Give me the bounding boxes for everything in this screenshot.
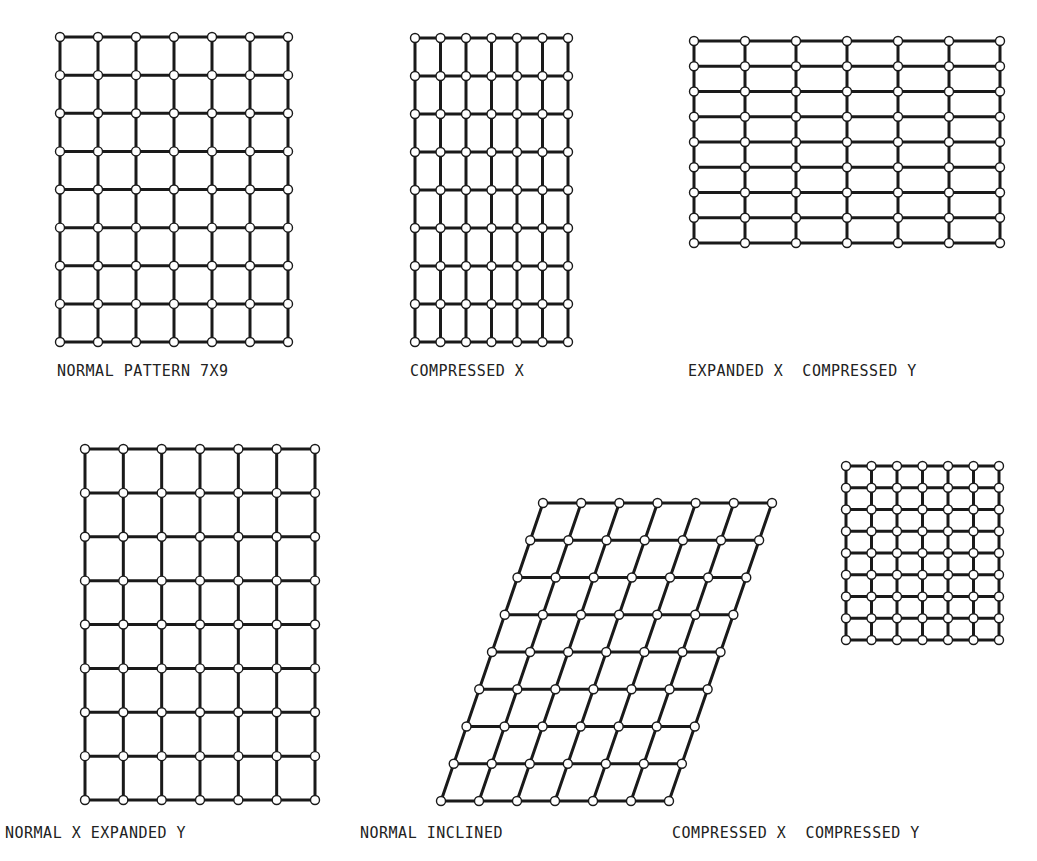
dot-icon bbox=[690, 138, 699, 147]
dot-icon bbox=[272, 752, 281, 761]
dot-icon bbox=[538, 338, 547, 347]
dot-icon bbox=[741, 239, 750, 248]
dot-icon bbox=[462, 300, 471, 309]
dot-icon bbox=[170, 299, 179, 308]
dot-icon bbox=[969, 570, 978, 579]
dot-icon bbox=[678, 648, 687, 657]
dot-icon bbox=[538, 722, 547, 731]
dot-icon bbox=[538, 262, 547, 271]
dot-icon bbox=[119, 445, 128, 454]
dot-icon bbox=[170, 33, 179, 42]
dot-icon bbox=[284, 147, 293, 156]
dot-icon bbox=[436, 34, 445, 43]
dot-icon bbox=[867, 570, 876, 579]
dot-icon bbox=[284, 33, 293, 42]
dot-icon bbox=[944, 527, 953, 536]
dot-icon bbox=[842, 614, 851, 623]
dot-icon bbox=[893, 570, 902, 579]
dot-icon bbox=[81, 752, 90, 761]
dot-icon bbox=[157, 664, 166, 673]
dot-icon bbox=[918, 462, 927, 471]
dot-icon bbox=[945, 138, 954, 147]
dot-icon bbox=[729, 499, 738, 508]
dot-icon bbox=[284, 71, 293, 80]
dot-icon bbox=[234, 445, 243, 454]
dot-icon bbox=[81, 620, 90, 629]
dot-icon bbox=[208, 338, 217, 347]
dot-icon bbox=[843, 62, 852, 71]
dot-icon bbox=[842, 592, 851, 601]
dot-icon bbox=[132, 338, 141, 347]
dot-icon bbox=[576, 610, 585, 619]
dot-icon bbox=[196, 445, 205, 454]
dot-icon bbox=[246, 185, 255, 194]
dot-icon bbox=[436, 224, 445, 233]
dot-icon bbox=[792, 138, 801, 147]
dot-icon bbox=[665, 797, 674, 806]
dot-icon bbox=[311, 796, 320, 805]
dot-icon bbox=[639, 759, 648, 768]
dot-icon bbox=[170, 109, 179, 118]
dot-icon bbox=[627, 573, 636, 582]
dot-icon bbox=[272, 708, 281, 717]
dot-icon bbox=[119, 664, 128, 673]
dot-icon bbox=[94, 147, 103, 156]
dot-icon bbox=[170, 338, 179, 347]
dot-icon bbox=[666, 573, 675, 582]
dot-icon bbox=[513, 338, 522, 347]
dot-icon bbox=[208, 71, 217, 80]
dot-icon bbox=[551, 573, 560, 582]
dot-icon bbox=[462, 338, 471, 347]
dot-icon bbox=[272, 620, 281, 629]
dot-icon bbox=[56, 261, 65, 270]
dot-icon bbox=[842, 636, 851, 645]
dot-icon bbox=[538, 610, 547, 619]
dot-icon bbox=[411, 186, 420, 195]
dot-icon bbox=[487, 300, 496, 309]
grid-compressed-x-compressed-y bbox=[842, 462, 1004, 645]
dot-icon bbox=[157, 445, 166, 454]
dot-icon bbox=[792, 239, 801, 248]
dot-icon bbox=[284, 338, 293, 347]
dot-icon bbox=[918, 570, 927, 579]
dot-icon bbox=[311, 576, 320, 585]
dot-icon bbox=[576, 722, 585, 731]
dot-icon bbox=[741, 188, 750, 197]
dot-icon bbox=[741, 112, 750, 121]
dot-icon bbox=[564, 148, 573, 157]
dot-icon bbox=[500, 610, 509, 619]
dot-icon bbox=[704, 573, 713, 582]
dot-icon bbox=[690, 188, 699, 197]
dot-icon bbox=[208, 261, 217, 270]
dot-icon bbox=[94, 185, 103, 194]
dot-icon bbox=[842, 527, 851, 536]
dot-icon bbox=[284, 261, 293, 270]
dot-icon bbox=[615, 610, 624, 619]
dot-icon bbox=[208, 33, 217, 42]
dot-icon bbox=[513, 110, 522, 119]
dot-icon bbox=[843, 239, 852, 248]
dot-icon bbox=[614, 722, 623, 731]
dot-icon bbox=[691, 499, 700, 508]
dot-icon bbox=[690, 163, 699, 172]
dot-icon bbox=[691, 610, 700, 619]
dot-icon bbox=[640, 648, 649, 657]
dot-icon bbox=[311, 752, 320, 761]
dot-icon bbox=[995, 483, 1004, 492]
dot-icon bbox=[918, 549, 927, 558]
dot-icon bbox=[894, 138, 903, 147]
dot-icon bbox=[487, 110, 496, 119]
dot-icon bbox=[272, 532, 281, 541]
dot-icon bbox=[944, 592, 953, 601]
dot-icon bbox=[234, 620, 243, 629]
dot-icon bbox=[272, 664, 281, 673]
dot-icon bbox=[56, 299, 65, 308]
dot-icon bbox=[538, 224, 547, 233]
dot-icon bbox=[487, 262, 496, 271]
dot-icon bbox=[525, 759, 534, 768]
dot-icon bbox=[867, 549, 876, 558]
dot-icon bbox=[867, 483, 876, 492]
dot-icon bbox=[513, 186, 522, 195]
dot-icon bbox=[945, 239, 954, 248]
dot-icon bbox=[792, 188, 801, 197]
